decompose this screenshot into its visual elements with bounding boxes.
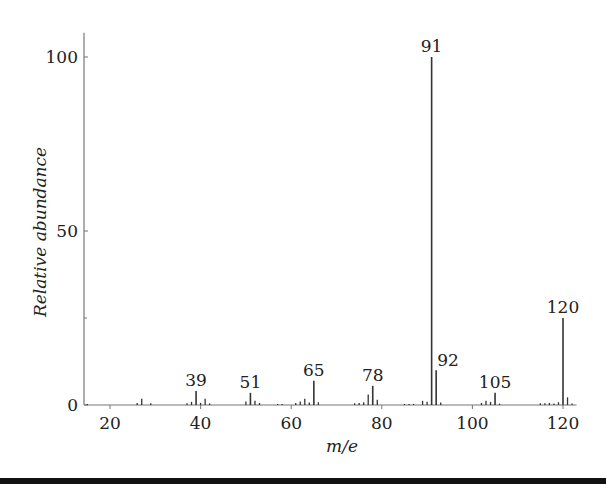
- peak-label-51: 51: [240, 372, 262, 392]
- x-tick-label: 60: [280, 413, 302, 433]
- axes: [84, 33, 577, 405]
- peak-label-39: 39: [185, 370, 207, 390]
- mass-spectrum-chart: 20406080100120050100 395165789192105120 …: [0, 0, 606, 488]
- peak-label-92: 92: [437, 350, 459, 370]
- peak-label-120: 120: [547, 297, 579, 317]
- x-tick-label: 40: [190, 413, 212, 433]
- x-tick-label: 120: [547, 413, 579, 433]
- x-axis-title: m/e: [326, 436, 358, 456]
- y-tick-label: 100: [46, 47, 78, 67]
- peak-label-105: 105: [479, 372, 511, 392]
- peak-labels: 395165789192105120: [185, 36, 579, 392]
- y-tick-label: 0: [67, 395, 78, 415]
- peaks: [87, 57, 572, 405]
- y-tick-label: 50: [56, 221, 78, 241]
- peak-label-91: 91: [421, 36, 443, 56]
- x-tick-label: 80: [371, 413, 393, 433]
- peak-label-78: 78: [362, 365, 384, 385]
- page-bottom-rule: [0, 478, 606, 484]
- x-tick-label: 20: [99, 413, 121, 433]
- x-tick-label: 100: [456, 413, 488, 433]
- peak-label-65: 65: [303, 360, 325, 380]
- y-axis-title: Relative abundance: [30, 147, 50, 318]
